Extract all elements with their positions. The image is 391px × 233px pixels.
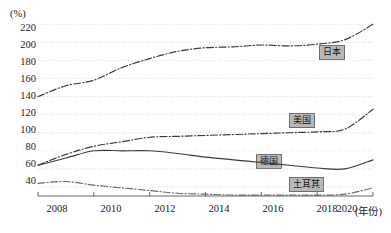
series-path-0 (38, 24, 373, 96)
chart-plot-area (0, 0, 391, 233)
grid-lines (38, 24, 373, 187)
chart-container: (%) 220 200 180 160 140 120 100 80 60 40… (0, 0, 391, 233)
series-path-2 (38, 150, 373, 169)
series-lines (38, 24, 373, 195)
